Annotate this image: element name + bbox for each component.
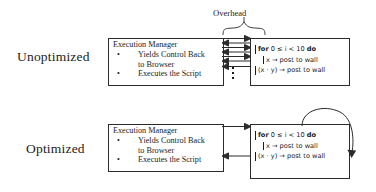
loop-arc-icon	[296, 104, 366, 164]
row-label-unoptimized: Unoptimized	[17, 49, 90, 65]
code-listing: for 0 ≤ i < 10 do x → post to wall (x · …	[255, 44, 349, 76]
list-item-label-continuation: to Browser	[138, 60, 223, 70]
execution-manager-title: Execution Manager	[113, 126, 177, 135]
list-item-label: Executes the Script	[138, 69, 201, 78]
vertical-ellipsis-icon	[232, 67, 236, 81]
code-line: (x · y) → post to wall	[255, 65, 349, 76]
list-item-label-continuation: to Browser	[138, 146, 223, 156]
code-line: x → post to wall	[255, 55, 349, 66]
execution-manager-list: • Yields Control Back to Browser • Execu…	[113, 136, 223, 165]
bullet-icon: •	[117, 69, 120, 79]
overhead-label: Overhead	[213, 8, 246, 18]
bullet-icon: •	[117, 136, 120, 146]
bullet-icon: •	[117, 155, 120, 165]
code-box-unoptimized: for 0 ≤ i < 10 do x → post to wall (x · …	[250, 38, 350, 86]
list-item: • Executes the Script	[113, 69, 223, 79]
execution-manager-box-unoptimized: Execution Manager • Yields Control Back …	[108, 38, 224, 86]
figure-canvas: Unoptimized Optimized Overhead Execution…	[0, 0, 376, 192]
message-arrows-unoptimized	[222, 36, 252, 80]
list-item-label: Yields Control Back	[138, 50, 205, 59]
code-line: for 0 ≤ i < 10 do	[255, 44, 349, 55]
list-item: • Yields Control Back to Browser	[113, 136, 223, 155]
bullet-icon: •	[117, 50, 120, 60]
list-item: • Executes the Script	[113, 155, 223, 165]
list-item-label: Executes the Script	[138, 155, 201, 164]
list-item: • Yields Control Back to Browser	[113, 50, 223, 69]
overhead-brace-icon	[222, 20, 266, 36]
execution-manager-list: • Yields Control Back to Browser • Execu…	[113, 50, 223, 79]
execution-manager-box-optimized: Execution Manager • Yields Control Back …	[108, 124, 224, 172]
row-label-optimized: Optimized	[26, 141, 85, 157]
execution-manager-title: Execution Manager	[113, 40, 177, 49]
message-arrows-optimized	[222, 124, 252, 170]
list-item-label: Yields Control Back	[138, 136, 205, 145]
